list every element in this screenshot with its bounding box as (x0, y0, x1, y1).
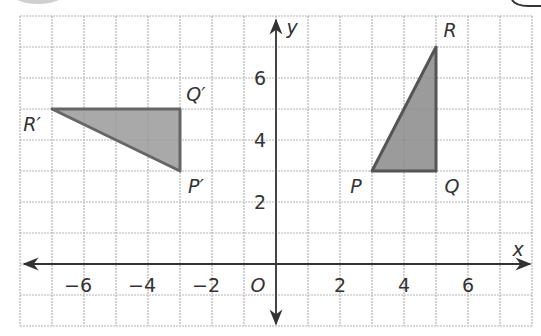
x-tick-label: −6 (64, 274, 92, 296)
x-tick-label: −4 (128, 274, 156, 296)
vertex-label: P′ (188, 175, 204, 197)
y-tick-label: 4 (254, 129, 266, 151)
coordinate-plane: −6−4−2246246OxyPQRP′Q′R′ (0, 0, 541, 336)
vertex-label: Q (445, 175, 460, 197)
vertex-label: R′ (23, 113, 41, 135)
axes (24, 20, 530, 324)
x-tick-label: −2 (192, 274, 220, 296)
x-tick-label: 2 (334, 274, 346, 296)
vertex-label: Q′ (186, 83, 206, 105)
x-tick-label: 6 (462, 274, 474, 296)
vertex-label: P (350, 175, 362, 197)
decorative-blob (12, 0, 64, 4)
decorative-corner (512, 0, 541, 6)
y-tick-label: 6 (254, 67, 266, 89)
y-axis-label: y (285, 16, 298, 38)
y-tick-label: 2 (254, 191, 266, 213)
x-tick-label: 4 (398, 274, 410, 296)
labels: −6−4−2246246OxyPQRP′Q′R′ (23, 16, 524, 296)
origin-label: O (251, 274, 266, 296)
vertex-label: R (443, 19, 456, 41)
x-axis-label: x (511, 238, 524, 260)
